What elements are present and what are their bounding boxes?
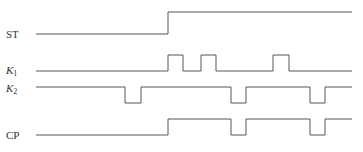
signal-cp: CP <box>6 119 352 141</box>
waveform-k1 <box>36 55 352 71</box>
waveform-st <box>36 12 352 34</box>
signal-label-k1: K1 <box>5 64 17 78</box>
signal-label-cp: CP <box>6 129 19 141</box>
signal-k2: K2 <box>5 82 352 103</box>
signal-st: ST <box>6 12 352 40</box>
timing-diagram: ST K1 K2 CP <box>0 0 363 152</box>
waveform-cp <box>36 119 352 135</box>
waveform-k2 <box>36 87 352 103</box>
signal-label-st: ST <box>6 28 19 40</box>
signal-k1: K1 <box>5 55 352 78</box>
signal-label-k2: K2 <box>5 82 17 96</box>
